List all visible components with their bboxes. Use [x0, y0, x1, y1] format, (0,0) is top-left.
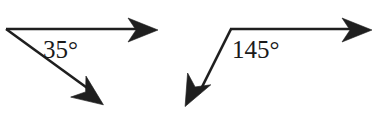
angle-label-35: 35° [43, 37, 78, 62]
angle-label-145: 145° [232, 37, 280, 62]
angle-diagram-figure: 35° 145° [0, 0, 378, 118]
right-diagonal-ray-shaft [199, 29, 231, 93]
angle-left-35 [6, 18, 158, 115]
angle-right-145 [174, 18, 372, 112]
